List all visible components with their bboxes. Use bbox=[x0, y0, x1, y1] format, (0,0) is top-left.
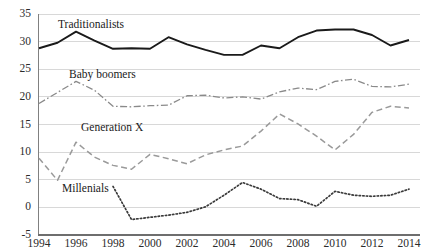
y-tick-label: 35 bbox=[5, 7, 31, 19]
x-tick-label: 2008 bbox=[278, 237, 318, 249]
series-label-traditionalists: Traditionalists bbox=[58, 18, 124, 30]
series-line-traditionalists bbox=[39, 29, 409, 54]
x-tick-label: 2000 bbox=[130, 237, 170, 249]
x-tick-label: 2002 bbox=[167, 237, 207, 249]
x-tick-label: 2004 bbox=[204, 237, 244, 249]
y-tick-label: 20 bbox=[5, 90, 31, 102]
x-tick-label: 2014 bbox=[389, 237, 422, 249]
x-tick-label: 1994 bbox=[19, 237, 59, 249]
y-tick-label: 25 bbox=[5, 62, 31, 74]
series-line-millenials bbox=[113, 183, 409, 220]
series-label-baby-boomers: Baby boomers bbox=[69, 68, 136, 80]
gridlines bbox=[38, 14, 420, 207]
y-tick-label: 5 bbox=[5, 173, 31, 185]
series-line-generation-x bbox=[39, 106, 409, 180]
y-tick-label: 0 bbox=[5, 200, 31, 212]
series-line-baby-boomers bbox=[39, 79, 409, 107]
series-label-generation-x: Generation X bbox=[81, 121, 143, 133]
x-tick-label: 2010 bbox=[315, 237, 355, 249]
x-tick-label: 2006 bbox=[241, 237, 281, 249]
y-tick-label: 15 bbox=[5, 118, 31, 130]
x-tick-label: 1996 bbox=[56, 237, 96, 249]
y-tick-label: 10 bbox=[5, 145, 31, 157]
x-tick-label: 2012 bbox=[352, 237, 392, 249]
series-label-millenials: Millenials bbox=[62, 182, 109, 194]
x-tick-label: 1998 bbox=[93, 237, 133, 249]
y-tick-label: 30 bbox=[5, 35, 31, 47]
